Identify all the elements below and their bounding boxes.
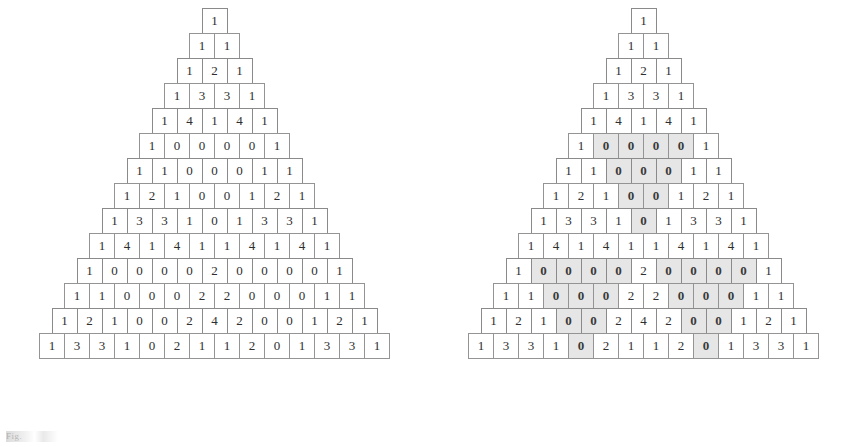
triangle-cell-highlighted: 0 (631, 158, 657, 184)
triangle-cell: 1 (164, 83, 190, 109)
triangle-cell: 1 (743, 233, 769, 259)
triangle-cell: 1 (302, 208, 328, 234)
triangle-cell: 1 (102, 208, 128, 234)
caption-fragment: Fig. (6, 431, 58, 442)
triangle-cell: 3 (618, 83, 644, 109)
triangle-cell-highlighted: 0 (606, 158, 632, 184)
triangle-cell: 2 (606, 308, 632, 334)
triangle-cell: 1 (531, 308, 557, 334)
triangle-cell: 1 (543, 333, 569, 359)
triangle-cell-highlighted: 0 (543, 283, 569, 309)
triangle-cell: 0 (277, 308, 303, 334)
triangle-cell: 1 (643, 33, 669, 59)
triangle-cell: 0 (214, 183, 240, 209)
triangle-cell: 1 (239, 83, 265, 109)
triangle-cell: 1 (743, 283, 769, 309)
triangle-cell: 3 (556, 208, 582, 234)
triangle-cell-highlighted: 0 (681, 258, 707, 284)
triangle-cell-highlighted: 0 (568, 283, 594, 309)
triangle-cell: 3 (152, 208, 178, 234)
triangle-cell-highlighted: 0 (568, 333, 594, 359)
triangle-cell: 1 (177, 208, 203, 234)
triangle-cell: 3 (127, 208, 153, 234)
triangle-cell: 1 (706, 158, 732, 184)
triangle-cell: 1 (89, 233, 115, 259)
triangle-cell: 1 (127, 158, 153, 184)
triangle-grid-right: 1111211331141411000011100011121001211331… (429, 8, 858, 428)
triangle-cell-highlighted: 0 (706, 308, 732, 334)
triangle-cell: 1 (314, 283, 340, 309)
figure-container: 1111211331141411000011100011121001211331… (0, 0, 858, 447)
triangle-row: 14141 (0, 108, 429, 134)
triangle-row: 100001 (429, 133, 858, 159)
triangle-cell: 0 (164, 283, 190, 309)
triangle-cell-highlighted: 0 (556, 308, 582, 334)
triangle-cell: 1 (681, 108, 707, 134)
triangle-cell: 1 (656, 58, 682, 84)
triangle-cell: 3 (339, 333, 365, 359)
triangle-cell: 4 (289, 233, 315, 259)
triangle-cell: 1 (39, 333, 65, 359)
triangle-cell: 2 (631, 258, 657, 284)
triangle-cell: 4 (164, 233, 190, 259)
triangle-cell: 2 (618, 283, 644, 309)
triangle-cell: 4 (656, 108, 682, 134)
triangle-cell: 0 (127, 258, 153, 284)
triangle-cell: 3 (581, 208, 607, 234)
triangle-row: 13310211201331 (0, 333, 429, 359)
triangle-row: 14141 (429, 108, 858, 134)
triangle-cell: 0 (177, 158, 203, 184)
triangle-cell-highlighted: 0 (631, 208, 657, 234)
triangle-row: 110002200011 (429, 283, 858, 309)
triangle-cell-highlighted: 0 (593, 283, 619, 309)
triangle-cell: 0 (252, 258, 278, 284)
triangle-cell: 3 (643, 83, 669, 109)
triangle-row: 1 (0, 8, 429, 34)
triangle-cell: 0 (239, 283, 265, 309)
triangle-cell: 4 (114, 233, 140, 259)
triangle-cell: 1 (556, 158, 582, 184)
triangle-cell: 0 (214, 133, 240, 159)
triangle-cell: 2 (177, 308, 203, 334)
triangle-row: 1331 (0, 83, 429, 109)
triangle-row: 1100011 (429, 158, 858, 184)
triangle-row: 1210024200121 (429, 308, 858, 334)
triangle-cell-highlighted: 0 (656, 258, 682, 284)
triangle-cell: 1 (202, 8, 228, 34)
triangle-cell: 1 (289, 183, 315, 209)
triangle-cell: 1 (214, 233, 240, 259)
triangle-cell: 1 (643, 333, 669, 359)
triangle-cell: 3 (743, 333, 769, 359)
triangle-row: 11 (429, 33, 858, 59)
panel-pascal-triangle-plain: 1111211331141411000011100011121001211331… (0, 8, 429, 428)
triangle-cell: 2 (227, 308, 253, 334)
triangle-row: 1100011 (0, 158, 429, 184)
triangle-cell: 1 (731, 208, 757, 234)
triangle-cell-highlighted: 0 (556, 258, 582, 284)
triangle-cell: 2 (202, 58, 228, 84)
triangle-row: 10000200001 (429, 258, 858, 284)
triangle-cell: 1 (581, 158, 607, 184)
triangle-cell-highlighted: 0 (656, 158, 682, 184)
triangle-cell: 1 (202, 108, 228, 134)
triangle-cell: 3 (277, 208, 303, 234)
triangle-cell: 1 (252, 158, 278, 184)
triangle-cell-highlighted: 0 (581, 258, 607, 284)
triangle-cell-highlighted: 0 (693, 333, 719, 359)
triangle-cell: 2 (189, 283, 215, 309)
triangle-cell-highlighted: 0 (643, 133, 669, 159)
triangle-cell: 1 (593, 183, 619, 209)
triangle-row: 13310211201331 (429, 333, 858, 359)
triangle-cell: 1 (681, 158, 707, 184)
triangle-cell: 1 (89, 283, 115, 309)
triangle-cell: 3 (314, 333, 340, 359)
triangle-cell: 1 (606, 58, 632, 84)
triangle-cell-highlighted: 0 (581, 308, 607, 334)
triangle-cell: 3 (89, 333, 115, 359)
triangle-cell: 3 (493, 333, 519, 359)
triangle-cell: 2 (164, 333, 190, 359)
triangle-cell: 3 (681, 208, 707, 234)
triangle-cell: 0 (114, 283, 140, 309)
triangle-cell: 1 (77, 258, 103, 284)
triangle-cell: 4 (631, 308, 657, 334)
